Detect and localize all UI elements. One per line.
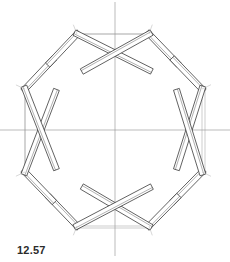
centre-axes (0, 2, 230, 256)
reciprocal-frame-drawing (0, 0, 230, 262)
figure-label: 12.57 (17, 244, 46, 256)
